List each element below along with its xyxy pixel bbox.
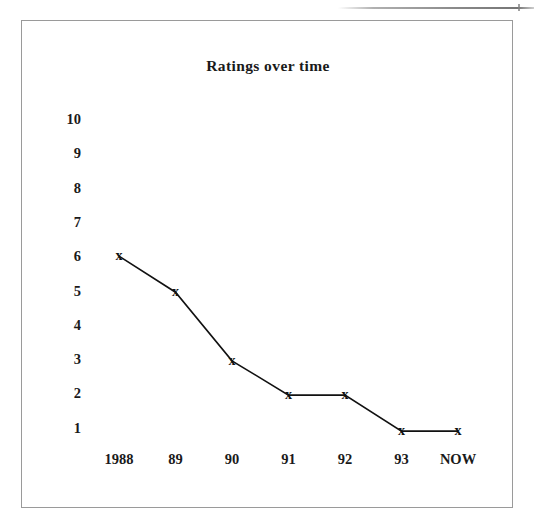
chart-frame: Ratings over time 10987654321 1988899091… xyxy=(21,20,513,508)
data-point-marker: x xyxy=(285,388,292,402)
x-axis-tick-label: NOW xyxy=(423,451,493,468)
data-point-marker: x xyxy=(229,354,236,368)
data-point-marker: x xyxy=(455,424,462,438)
y-axis-tick-label: 1 xyxy=(41,419,81,436)
y-axis-tick-label: 8 xyxy=(41,179,81,196)
y-axis-tick-label: 6 xyxy=(41,248,81,265)
y-axis-tick-label: 4 xyxy=(41,316,81,333)
scan-artifact-streak xyxy=(338,7,534,9)
y-axis-tick-label: 3 xyxy=(41,351,81,368)
data-point-marker: x xyxy=(398,424,405,438)
data-point-marker: x xyxy=(116,249,123,263)
scan-artifact-tick xyxy=(518,4,520,11)
data-point-marker: x xyxy=(172,285,179,299)
y-axis-tick-label: 7 xyxy=(41,213,81,230)
series-polyline xyxy=(22,21,514,509)
plot-area: 10987654321 19888990919293NOW xxxxxxx xyxy=(22,21,514,509)
y-axis-tick-label: 10 xyxy=(41,111,81,128)
data-point-marker: x xyxy=(342,388,349,402)
y-axis-tick-label: 2 xyxy=(41,385,81,402)
y-axis-tick-label: 9 xyxy=(41,145,81,162)
y-axis-tick-label: 5 xyxy=(41,282,81,299)
